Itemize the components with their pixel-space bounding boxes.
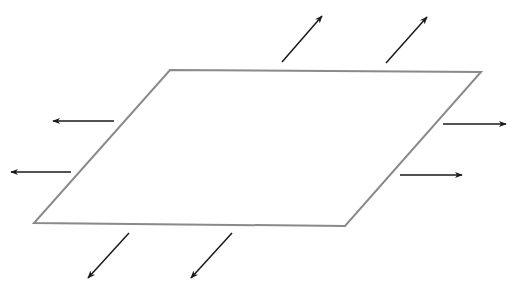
force-arrows: [11, 16, 506, 278]
arrow-up-right-2-icon: [386, 17, 427, 63]
arrow-down-left-1-icon: [88, 233, 129, 278]
arrow-up-right-1-icon: [282, 16, 322, 62]
parallelogram-sheet: [34, 70, 481, 226]
stretched-sheet-diagram: [0, 0, 520, 283]
diagram-canvas: [0, 0, 520, 283]
arrow-down-left-2-icon: [191, 233, 232, 278]
